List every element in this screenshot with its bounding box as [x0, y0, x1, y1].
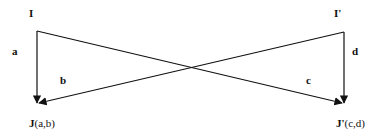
- node-label-J-prime-coords: (c,d): [345, 117, 365, 129]
- node-label-J: J(a,b): [29, 118, 55, 129]
- edge-label-c: c: [306, 75, 311, 86]
- node-label-J-prime: J'(c,d): [336, 118, 365, 129]
- edges-layer: [0, 0, 376, 136]
- node-label-J-prime-name: J': [336, 117, 345, 129]
- node-label-I-prime: I': [334, 8, 341, 19]
- node-label-I: I: [29, 8, 33, 19]
- edge-label-d: d: [352, 46, 358, 57]
- edge-label-a: a: [12, 46, 18, 57]
- diagram-canvas: I I' a b c d J(a,b) J'(c,d): [0, 0, 376, 136]
- edge-label-b: b: [60, 75, 66, 86]
- node-label-J-coords: (a,b): [35, 117, 55, 129]
